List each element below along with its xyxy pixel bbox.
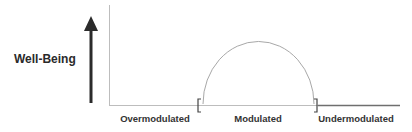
well-being-up-arrow-icon <box>84 16 98 103</box>
x-label-overmodulated: Overmodulated <box>120 113 190 124</box>
x-label-undermodulated: Undermodulated <box>318 113 393 124</box>
modulated-curve <box>203 41 314 104</box>
x-label-modulated: Modulated <box>234 113 282 124</box>
